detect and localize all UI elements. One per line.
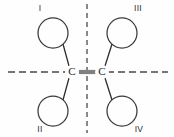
substituent-label-ii: II: [37, 124, 42, 134]
carbon-left-label: C: [68, 65, 75, 77]
diagram-canvas: C C I II III IV: [0, 0, 174, 137]
bond-line-to-substituent-iii: [105, 44, 112, 66]
substituent-label-iii: III: [134, 3, 142, 13]
bond-line-to-substituent-iv: [105, 78, 112, 100]
substituent-circle-iv: [107, 96, 137, 126]
carbon-right-label: C: [98, 65, 105, 77]
substituent-label-i: I: [39, 3, 42, 13]
substituent-label-iv: IV: [135, 124, 144, 134]
substituent-circle-ii: [38, 96, 68, 126]
chemical-structure-diagram: C C I II III IV: [0, 0, 174, 137]
bond-line-to-substituent-i: [63, 44, 69, 66]
substituent-circle-i: [38, 18, 68, 48]
substituent-circle-iii: [107, 18, 137, 48]
bond-line-to-substituent-ii: [63, 78, 69, 100]
